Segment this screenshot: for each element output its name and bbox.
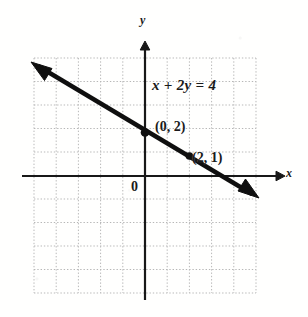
point-label-0-2: (0, 2) [155,120,185,134]
equation-label: x + 2y = 4 [152,78,216,93]
y-axis-label: y [140,14,145,26]
point-0-2 [141,128,150,137]
point-label-2-1: (2, 1) [192,151,222,165]
x-axis-label: x [286,167,292,179]
graph-figure [0,0,308,317]
origin-label: 0 [131,180,138,194]
